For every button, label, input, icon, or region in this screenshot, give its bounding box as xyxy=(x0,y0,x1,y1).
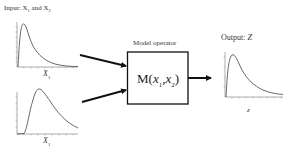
input2-density-plot xyxy=(16,89,79,136)
input1-density-plot xyxy=(16,22,79,69)
input2-arrow xyxy=(82,90,126,102)
output-axis-label: z xyxy=(247,107,250,114)
output-density-plot xyxy=(224,52,284,99)
input1-axis-label: X1 xyxy=(43,70,50,80)
operator-expression: M(x1,x2) xyxy=(137,72,179,89)
input2-axis-label: X1 xyxy=(43,137,50,147)
input-title: Input: X1 and X2 xyxy=(4,5,51,14)
operator-title: Model operator xyxy=(133,40,176,47)
input1-arrow xyxy=(80,55,126,66)
output-title: Output: Z xyxy=(221,34,252,42)
